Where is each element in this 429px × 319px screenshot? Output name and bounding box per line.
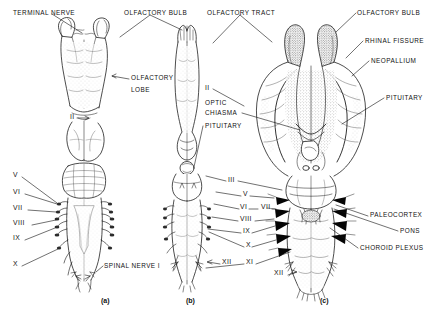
numeral-a-V: V xyxy=(13,171,18,178)
caption-panel-c: (c) xyxy=(320,297,329,304)
numeral-c-VIII: VIII xyxy=(240,215,252,222)
numeral-b-XII: XII xyxy=(222,258,232,265)
numeral-a-VI: VI xyxy=(13,188,20,195)
numeral-a-VIII: VIII xyxy=(13,219,25,226)
numeral-c-VI: VI xyxy=(240,203,247,210)
label-choroid-plexus: CHOROID PLEXUS xyxy=(360,244,423,252)
numeral-b-II: II xyxy=(205,84,210,91)
numeral-c-IX: IX xyxy=(243,227,250,234)
panel-b-specimen xyxy=(163,25,211,292)
brain-illustration-artwork xyxy=(0,0,429,319)
caption-panel-b: (b) xyxy=(186,297,195,304)
numeral-a-VII: VII xyxy=(13,204,23,211)
label-olfactory-bulb-left: OLFACTORY BULB xyxy=(124,9,187,17)
label-neopallium: NEOPALLIUM xyxy=(371,57,416,65)
anatomical-figure: TERMINAL NERVE OLFACTORY BULB OLFACTORY … xyxy=(0,0,429,319)
caption-panel-a: (a) xyxy=(101,297,110,304)
label-optic-chiasma-line1: OPTIC xyxy=(205,99,227,107)
label-olfactory-bulb-right: OLFACTORY BULB xyxy=(357,9,420,17)
numeral-a-X: X xyxy=(13,260,18,267)
numeral-c-V: V xyxy=(243,190,248,197)
label-pons: PONS xyxy=(400,227,420,235)
label-olfactory-lobe-line1: OLFACTORY xyxy=(131,74,174,82)
numeral-c-X: X xyxy=(246,241,251,248)
numeral-c-VII: VII xyxy=(261,203,271,210)
numeral-c-XII: XII xyxy=(274,269,284,276)
numeral-a-IX: IX xyxy=(13,234,20,241)
label-olfactory-lobe-line2: LOBE xyxy=(131,86,150,94)
label-pituitary-middle: PITUITARY xyxy=(205,122,242,130)
label-pituitary-right: PITUITARY xyxy=(386,94,423,102)
panel-a-specimen xyxy=(55,18,115,292)
label-paleocortex: PALEOCORTEX xyxy=(370,211,422,219)
label-olfactory-tract: OLFACTORY TRACT xyxy=(207,9,275,17)
numeral-a-II: II xyxy=(70,113,75,120)
label-terminal-nerve: TERMINAL NERVE xyxy=(13,9,75,17)
panel-c-specimen xyxy=(256,25,365,301)
label-spinal-nerve-1: SPINAL NERVE I xyxy=(104,262,160,270)
numeral-b-III: III xyxy=(228,176,235,183)
numeral-c-XI: XI xyxy=(246,258,253,265)
label-rhinal-fissure: RHINAL FISSURE xyxy=(365,37,424,45)
label-optic-chiasma-line2: CHIASMA xyxy=(205,109,237,117)
